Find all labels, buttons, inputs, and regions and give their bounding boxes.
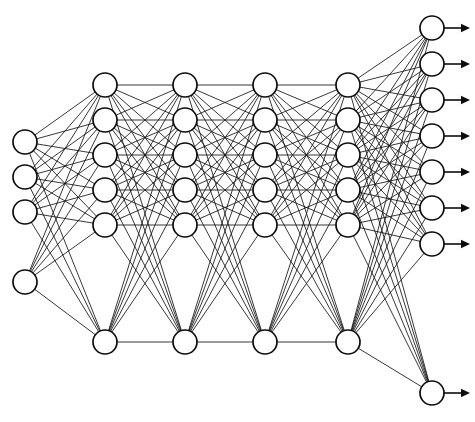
neuron-node-input-1[interactable] bbox=[13, 130, 37, 154]
connection-edge bbox=[356, 37, 424, 111]
neuron-node-input-2[interactable] bbox=[13, 165, 37, 189]
connection-edge bbox=[33, 129, 97, 203]
output-arrow-head bbox=[461, 24, 470, 32]
connection-edge bbox=[30, 96, 101, 271]
neuron-node-hidden-4[interactable] bbox=[253, 178, 277, 202]
neuron-node-hidden-5[interactable] bbox=[253, 213, 277, 237]
connection-edge bbox=[356, 129, 423, 200]
neuron-node-hidden-4[interactable] bbox=[173, 178, 197, 202]
neuron-node-hidden-2[interactable] bbox=[93, 108, 117, 132]
connection-edge bbox=[35, 232, 95, 275]
connection-edge bbox=[31, 222, 98, 332]
neuron-node-hidden-6[interactable] bbox=[93, 330, 117, 354]
neuron-node-hidden-1[interactable] bbox=[93, 73, 117, 97]
connection-edge bbox=[356, 253, 424, 333]
connection-edge bbox=[353, 147, 428, 331]
connection-edge bbox=[356, 164, 424, 236]
neuron-node-hidden-1[interactable] bbox=[253, 73, 277, 97]
output-arrow-head bbox=[461, 204, 470, 212]
neuron-node-hidden-3[interactable] bbox=[253, 143, 277, 167]
neuron-node-hidden-1[interactable] bbox=[336, 73, 360, 97]
neuron-node-output-8[interactable] bbox=[420, 381, 444, 405]
connection-edge bbox=[358, 35, 422, 79]
connection-edge bbox=[31, 95, 98, 202]
neuron-node-hidden-3[interactable] bbox=[336, 143, 360, 167]
output-arrow-head bbox=[461, 389, 470, 397]
neuron-node-hidden-5[interactable] bbox=[93, 213, 117, 237]
output-arrow-head bbox=[461, 168, 470, 176]
output-arrow-head bbox=[461, 132, 470, 140]
neuron-node-hidden-5[interactable] bbox=[336, 213, 360, 237]
neuron-node-hidden-6[interactable] bbox=[173, 330, 197, 354]
neural-network-diagram bbox=[0, 0, 475, 422]
neuron-node-output-6[interactable] bbox=[420, 196, 444, 220]
connection-edge bbox=[33, 199, 97, 273]
output-arrow-head bbox=[461, 60, 470, 68]
neuron-node-hidden-4[interactable] bbox=[336, 178, 360, 202]
neuron-node-hidden-2[interactable] bbox=[336, 108, 360, 132]
neuron-node-hidden-4[interactable] bbox=[93, 178, 117, 202]
neuron-node-hidden-2[interactable] bbox=[173, 108, 197, 132]
neuron-node-output-7[interactable] bbox=[420, 232, 444, 256]
connection-edge bbox=[35, 92, 95, 135]
neuron-node-input-3[interactable] bbox=[13, 200, 37, 224]
connection-edges-group bbox=[29, 35, 428, 387]
connection-edge bbox=[354, 218, 425, 332]
neuron-node-output-4[interactable] bbox=[420, 124, 444, 148]
connection-edge bbox=[31, 165, 98, 272]
neuron-node-hidden-1[interactable] bbox=[173, 73, 197, 97]
neuron-node-hidden-3[interactable] bbox=[93, 143, 117, 167]
neuron-node-hidden-3[interactable] bbox=[173, 143, 197, 167]
connection-edge bbox=[33, 94, 97, 168]
output-arrow-head bbox=[461, 240, 470, 248]
neuron-node-hidden-2[interactable] bbox=[253, 108, 277, 132]
neuron-node-hidden-6[interactable] bbox=[253, 330, 277, 354]
neural-network-canvas bbox=[0, 0, 475, 422]
neuron-node-output-2[interactable] bbox=[420, 52, 444, 76]
neuron-node-output-3[interactable] bbox=[420, 88, 444, 112]
neuron-node-hidden-5[interactable] bbox=[173, 213, 197, 237]
output-arrows-group bbox=[444, 24, 470, 397]
neuron-node-input-4[interactable] bbox=[13, 270, 37, 294]
connection-edge bbox=[351, 40, 429, 331]
neuron-node-output-5[interactable] bbox=[420, 160, 444, 184]
output-arrow-head bbox=[461, 96, 470, 104]
neuron-node-hidden-6[interactable] bbox=[336, 330, 360, 354]
neuron-node-output-1[interactable] bbox=[420, 16, 444, 40]
